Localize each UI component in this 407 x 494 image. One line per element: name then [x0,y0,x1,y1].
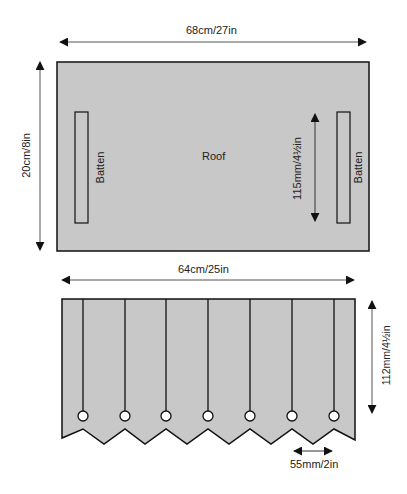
valance-height-label: 112mm/4½in [381,315,392,395]
batten-right-label: Batten [353,148,364,188]
roof-width-label: 68cm/27in [186,25,237,36]
roof-depth-label: 20cm/8in [21,126,32,186]
batten-right [337,112,350,223]
batten-left-label: Batten [95,148,106,188]
valance-width-label: 64cm/25in [178,264,229,275]
batten-left [75,112,88,223]
diagram-canvas [0,0,407,494]
point-spacing-label: 55mm/2in [290,459,338,470]
batten-length-label: 115mm/4½in [292,129,303,209]
roof-label: Roof [202,151,225,162]
